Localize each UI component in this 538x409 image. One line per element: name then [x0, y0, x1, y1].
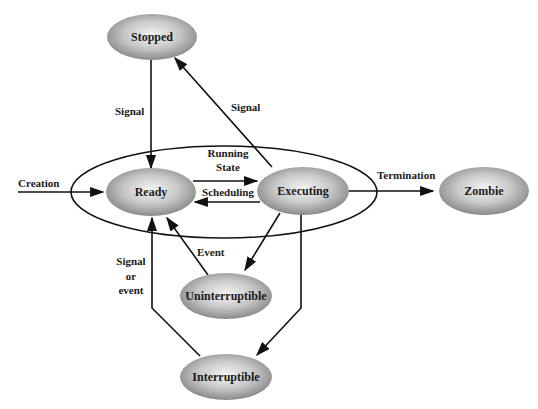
node-ready[interactable]: Ready — [106, 168, 196, 216]
state-diagram: Stopped Ready Executing Zombie Uninterru… — [0, 0, 538, 409]
label-scheduling: Scheduling — [202, 186, 254, 198]
label-creation: Creation — [18, 177, 59, 189]
node-label: Stopped — [131, 30, 173, 44]
node-label: Uninterruptible — [185, 289, 267, 303]
node-label: Ready — [135, 185, 168, 199]
label-state: State — [216, 161, 240, 173]
node-interruptible[interactable]: Interruptible — [180, 354, 272, 400]
label-termination: Termination — [377, 169, 435, 181]
label-signal-stopped-ready: Signal — [115, 105, 144, 117]
node-executing[interactable]: Executing — [257, 167, 349, 215]
label-running: Running — [208, 147, 249, 159]
edge-executing-to-uninterruptible — [245, 213, 280, 270]
node-stopped[interactable]: Stopped — [107, 14, 197, 60]
label-signal-or-event-2: or — [126, 270, 137, 282]
label-event: Event — [197, 246, 225, 258]
node-label: Interruptible — [192, 370, 260, 384]
node-label: Zombie — [464, 184, 504, 198]
label-signal-executing-stopped: Signal — [231, 101, 260, 113]
node-label: Executing — [277, 184, 328, 198]
node-zombie[interactable]: Zombie — [439, 167, 529, 215]
label-signal-or-event-3: event — [118, 284, 143, 296]
node-uninterruptible[interactable]: Uninterruptible — [180, 273, 272, 319]
label-signal-or-event-1: Signal — [116, 255, 145, 267]
